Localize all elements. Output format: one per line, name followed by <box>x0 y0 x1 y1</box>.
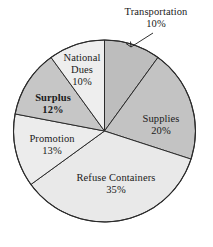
slice-label-promotion: Promotion 13% <box>14 133 90 157</box>
slice-label-surplus-value: 12% <box>22 104 84 116</box>
slice-label-supplies-name: Supplies <box>128 113 194 125</box>
transportation-leader-line <box>131 33 153 47</box>
slice-label-national-dues-name-line1: National <box>55 52 109 64</box>
pie-chart: Transportation 10% National Dues 10% Sur… <box>0 0 213 247</box>
slice-label-promotion-name: Promotion <box>14 133 90 145</box>
slice-label-supplies: Supplies 20% <box>128 113 194 137</box>
slice-label-transportation-value: 10% <box>103 18 209 30</box>
slice-label-transportation-name: Transportation <box>103 6 209 18</box>
slice-label-supplies-value: 20% <box>128 125 194 137</box>
slice-label-national-dues-name-line2: Dues <box>55 64 109 76</box>
slice-label-promotion-value: 13% <box>14 145 90 157</box>
slice-label-national-dues: National Dues 10% <box>55 52 109 87</box>
slice-label-transportation: Transportation 10% <box>103 6 209 30</box>
slice-label-refuse-containers-value: 35% <box>61 184 171 196</box>
slice-label-surplus: Surplus 12% <box>22 92 84 116</box>
slice-label-surplus-name: Surplus <box>22 92 84 104</box>
slice-label-national-dues-value: 10% <box>55 76 109 88</box>
slice-label-refuse-containers: Refuse Containers 35% <box>61 172 171 196</box>
slice-label-refuse-containers-name: Refuse Containers <box>61 172 171 184</box>
